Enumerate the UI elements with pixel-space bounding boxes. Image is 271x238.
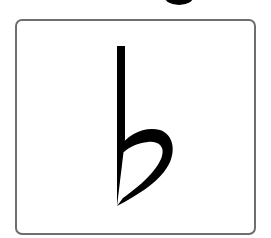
flat-symbol-icon (0, 0, 271, 238)
